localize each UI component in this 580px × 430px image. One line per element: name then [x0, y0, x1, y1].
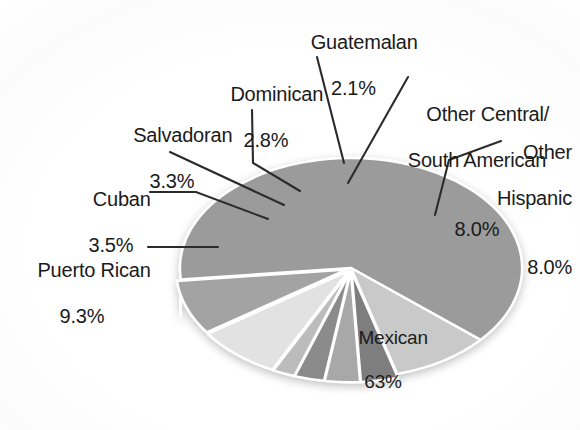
label-puerto-rican-name: Puerto Rican	[37, 259, 150, 281]
label-mexican-name: Mexican	[358, 327, 427, 348]
label-puerto-rican: Puerto Rican 9.3%	[16, 236, 148, 374]
label-puerto-rican-pct: 9.3%	[16, 305, 148, 328]
label-other-hispanic-l1: Other	[523, 141, 572, 163]
label-cuban-name: Cuban	[93, 188, 151, 210]
label-other-hispanic-pct: 8.0%	[358, 256, 572, 279]
label-dominican-name: Dominican	[230, 83, 323, 105]
label-other-hispanic-l2: Hispanic	[358, 187, 572, 210]
label-salvadoran-name: Salvadoran	[133, 124, 232, 146]
label-other-hispanic: Other Hispanic 8.0%	[358, 118, 572, 325]
label-mexican: Mexican 63%	[328, 305, 438, 430]
pie-chart-figure: Guatemalan 2.1% Other Central/South Amer…	[0, 0, 580, 430]
label-mexican-pct: 63%	[328, 371, 438, 393]
label-guatemalan-name: Guatemalan	[311, 31, 418, 53]
